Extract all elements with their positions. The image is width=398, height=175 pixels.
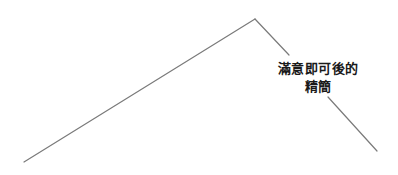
annotation-label: 滿意即可後的 精簡: [268, 60, 368, 96]
rising-segment: [24, 19, 255, 162]
annotation-line-2: 精簡: [268, 78, 368, 96]
descending-segment-upper: [255, 19, 289, 55]
descending-segment-lower: [328, 97, 377, 151]
annotation-line-1: 滿意即可後的: [268, 60, 368, 78]
